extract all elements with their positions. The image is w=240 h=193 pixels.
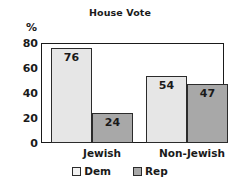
bar-nonjewish-dem: 54 (146, 76, 187, 144)
bar-value-label: 76 (52, 52, 91, 64)
bar-chart: House Vote % 80 60 40 20 0 76 24 54 47 J… (0, 0, 240, 193)
y-axis-tick-labels: 80 60 40 20 0 (8, 43, 38, 143)
x-category-label-jewish: Jewish (62, 147, 142, 159)
bar-value-label: 54 (147, 80, 186, 92)
legend-label: Dem (84, 166, 111, 177)
y-axis-unit-label: % (26, 21, 37, 34)
legend-swatch-icon (133, 167, 142, 176)
bar-jewish-dem: 76 (51, 48, 92, 143)
bar-jewish-rep: 24 (92, 113, 133, 143)
chart-title: House Vote (0, 7, 240, 18)
bar-nonjewish-rep: 47 (187, 84, 228, 143)
chart-legend: Dem Rep (0, 166, 240, 177)
legend-label: Rep (145, 166, 168, 177)
y-tick-label: 0 (12, 138, 38, 149)
bar-value-label: 24 (93, 117, 132, 129)
y-tick-label: 20 (12, 113, 38, 124)
y-tick-label: 80 (12, 38, 38, 49)
x-category-label-non-jewish: Non-Jewish (147, 147, 237, 159)
legend-item-dem: Dem (72, 166, 111, 177)
legend-item-rep: Rep (133, 166, 168, 177)
bar-value-label: 47 (188, 88, 227, 100)
bars-layer: 76 24 54 47 (41, 43, 224, 143)
legend-swatch-icon (72, 167, 81, 176)
y-tick-label: 60 (12, 63, 38, 74)
y-tick-label: 40 (12, 88, 38, 99)
